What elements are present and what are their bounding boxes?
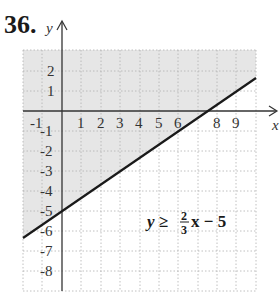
svg-text:-8: -8 bbox=[40, 263, 53, 279]
svg-text:5: 5 bbox=[155, 115, 163, 131]
svg-text:-3: -3 bbox=[40, 163, 53, 179]
shaded-region bbox=[23, 50, 256, 238]
svg-text:1: 1 bbox=[77, 115, 85, 131]
svg-text:x − 5: x − 5 bbox=[191, 212, 226, 231]
inequality-label: y ≥ 2 3 x − 5 bbox=[145, 209, 226, 237]
svg-text:2: 2 bbox=[97, 115, 105, 131]
svg-text:-5: -5 bbox=[40, 203, 53, 219]
svg-text:-7: -7 bbox=[40, 243, 53, 259]
svg-text:y ≥: y ≥ bbox=[145, 212, 168, 231]
svg-text:-2: -2 bbox=[40, 143, 53, 159]
svg-text:-4: -4 bbox=[40, 183, 53, 199]
svg-text:2: 2 bbox=[47, 63, 55, 79]
svg-text:2: 2 bbox=[181, 209, 187, 223]
svg-text:4: 4 bbox=[135, 115, 143, 131]
svg-text:8: 8 bbox=[213, 115, 221, 131]
svg-text:3: 3 bbox=[181, 223, 187, 237]
svg-text:1: 1 bbox=[47, 83, 55, 99]
x-axis-label: x bbox=[271, 117, 279, 133]
svg-text:-1: -1 bbox=[40, 123, 53, 139]
svg-text:3: 3 bbox=[116, 115, 124, 131]
inequality-graph: y x -1 1 2 3 4 5 6 8 9 2 1 -1 -2 -3 -4 -… bbox=[0, 0, 280, 299]
svg-text:9: 9 bbox=[232, 115, 240, 131]
y-axis-label: y bbox=[44, 20, 53, 36]
